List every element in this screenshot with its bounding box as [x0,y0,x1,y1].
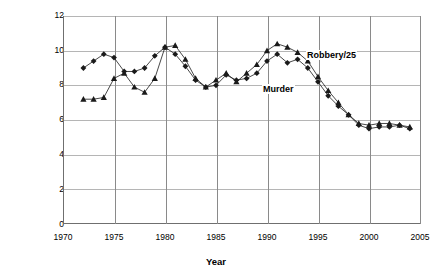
data-point-triangle [274,41,280,47]
data-point-triangle [315,74,321,80]
data-point-triangle [142,89,148,95]
data-point-triangle [152,75,158,81]
data-point-triangle [295,49,301,55]
series-line-robbery-25 [83,44,409,127]
data-point-triangle [325,87,331,93]
data-point-triangle [223,70,229,76]
data-point-triangle [131,84,137,90]
data-point-triangle [111,75,117,81]
data-point-triangle [254,61,260,67]
data-point-triangle [213,77,219,83]
series-label-robbery: Robbery/25 [306,50,357,60]
data-point-diamond [91,58,97,64]
data-point-diamond [132,69,138,75]
data-point-triangle [284,44,290,50]
series-label-murder: Murder [262,84,295,94]
chart-figure: Rate per 100,000 Population 12 10 8 6 4 … [0,0,432,275]
data-point-diamond [244,76,250,82]
data-point-diamond [111,55,117,61]
data-point-diamond [101,51,107,57]
data-point-triangle [101,94,107,100]
data-point-triangle [264,48,270,54]
data-point-triangle [193,75,199,81]
x-axis-title: Year [0,256,432,267]
series-layer [0,0,432,275]
data-point-triangle [172,42,178,48]
data-point-diamond [81,65,87,71]
data-point-triangle [182,56,188,62]
